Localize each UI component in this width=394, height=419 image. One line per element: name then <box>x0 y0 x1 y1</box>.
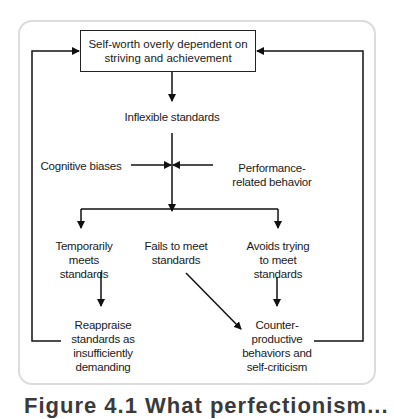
node-counterproductive: Counter-productive behaviors and self-cr… <box>239 318 315 374</box>
node-fails-to-meet: Fails to meet standards <box>139 239 213 267</box>
node-reappraise-standards: Reappraise standards as insufficiently d… <box>68 318 138 374</box>
node-cognitive-biases: Cognitive biases <box>36 159 126 173</box>
node-temporarily-meets: Temporarily meets standards <box>44 239 124 281</box>
node-inflexible-standards: Inflexible standards <box>112 110 232 124</box>
node-self-worth: Self-worth overly dependent on striving … <box>80 30 256 72</box>
node-avoids-trying: Avoids trying to meet standards <box>245 239 311 281</box>
figure-caption: Figure 4.1 What perfectionism... <box>24 393 389 419</box>
node-performance-behavior: Performance-related behavior <box>222 161 322 189</box>
